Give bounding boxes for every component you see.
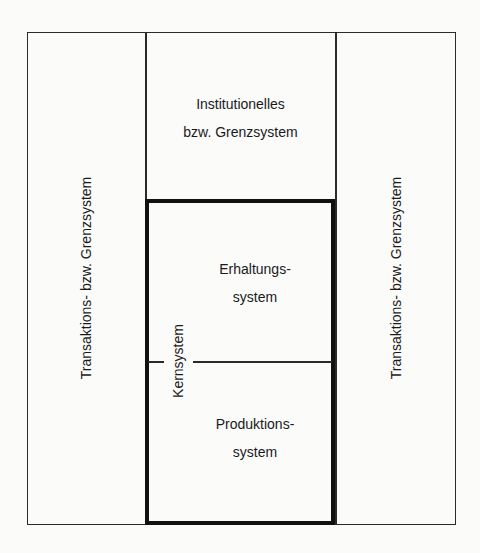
- production-line1: Produktions-: [180, 410, 330, 438]
- maintenance-line1: Erhaltungs-: [180, 255, 330, 283]
- right-column-divider: [335, 33, 337, 525]
- institutional-system-label: Institutionelles bzw. Grenzsystem: [146, 90, 335, 146]
- maintenance-line2: system: [180, 283, 330, 311]
- core-divider-right: [193, 361, 332, 363]
- right-transaction-system-label: Transaktions- bzw. Grenzsystem: [388, 177, 404, 380]
- production-line2: system: [180, 438, 330, 466]
- left-transaction-system-label: Transaktions- bzw. Grenzsystem: [78, 177, 94, 380]
- institutional-line2: bzw. Grenzsystem: [146, 118, 335, 146]
- core-divider-left: [148, 361, 164, 363]
- production-system-label: Produktions- system: [180, 410, 330, 466]
- maintenance-system-label: Erhaltungs- system: [180, 255, 330, 311]
- institutional-line1: Institutionelles: [146, 90, 335, 118]
- core-system-label: Kernsystem: [170, 324, 186, 398]
